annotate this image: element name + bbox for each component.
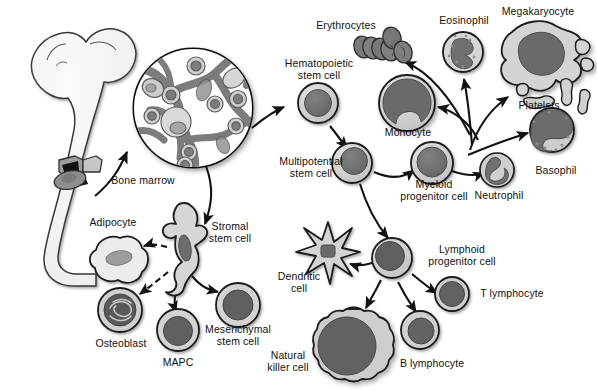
label-dendritic-cell: Dendritic cell (270, 271, 328, 294)
label-hematopoietic-stem-cell: Hematopoietic stem cell (271, 58, 367, 81)
arrow-lymphoid-to-t-lymphocyte (412, 274, 437, 293)
arrow-myeloid-to-neutrophil (452, 171, 484, 175)
label-osteoblast: Osteoblast (86, 338, 156, 350)
arrow-lymphoid-to-b-lymphocyte (398, 282, 416, 312)
label-platelets: Platelets (508, 100, 570, 112)
arrow-stromal-to-mesenchymal (192, 276, 218, 292)
label-b-lymphocyte: B lymphocyte (392, 358, 472, 370)
label-t-lymphocyte: T lymphocyte (473, 288, 551, 300)
eosinophil (443, 32, 483, 72)
monocyte (379, 75, 435, 131)
label-erythrocytes: Erythrocytes (306, 20, 386, 32)
lymphoid-progenitor-cell (372, 238, 412, 278)
stromal-stem-cell (163, 203, 207, 295)
label-adipocyte: Adipocyte (79, 217, 147, 229)
label-monocyte: Monocyte (375, 127, 441, 139)
adipocyte (90, 236, 148, 282)
label-mesenchymal-stem-cell: Mesenchymal stem cell (190, 324, 286, 347)
arrow-stromal-to-osteoblast (140, 272, 168, 294)
mesenchymal-stem-cell (216, 283, 260, 327)
natural-killer-cell (313, 307, 394, 381)
label-neutrophil: Neutrophil (468, 190, 530, 202)
label-basophil: Basophil (527, 165, 585, 177)
megakaryocyte (501, 21, 593, 96)
basophil (530, 108, 574, 152)
label-stromal-stem-cell: Stromal stem cell (199, 221, 261, 244)
marrow-cavity (52, 156, 102, 192)
label-bone-marrow: Bone marrow (98, 175, 188, 187)
arrow-lymphoid-to-dendritic (350, 263, 372, 265)
hematopoiesis-diagram: Bone marrow Hematopoietic stem cell Mult… (0, 0, 597, 390)
t-lymphocyte (435, 277, 469, 311)
marrow-micrograph (134, 49, 256, 173)
label-mapc: MAPC (152, 357, 204, 369)
label-natural-killer-cell: Natural killer cell (257, 350, 319, 373)
arrow-micrograph-to-stromal (205, 166, 211, 224)
arrow-lymphoid-to-nk (366, 280, 381, 308)
arrow-stromal-to-adipocyte (144, 245, 167, 247)
arrow-micrograph-to-hsc (252, 107, 284, 128)
arrow-myeloid-to-eosinophil (464, 79, 472, 145)
b-lymphocyte (401, 311, 439, 349)
arrow-multipotential-to-myeloid (374, 170, 414, 177)
label-multipotential-stem-cell: Multipotential stem cell (265, 156, 357, 179)
label-megakaryocyte: Megakaryocyte (492, 6, 584, 18)
label-myeloid-progenitor-cell: Myeloid progenitor cell (392, 179, 476, 202)
arrow-multipotential-to-lymphoid (360, 184, 388, 238)
label-lymphoid-progenitor-cell: Lymphoid progenitor cell (418, 244, 506, 267)
neutrophil (480, 153, 514, 187)
label-eosinophil: Eosinophil (432, 15, 496, 27)
osteoblast (98, 288, 142, 332)
hematopoietic-stem-cell (298, 83, 338, 123)
